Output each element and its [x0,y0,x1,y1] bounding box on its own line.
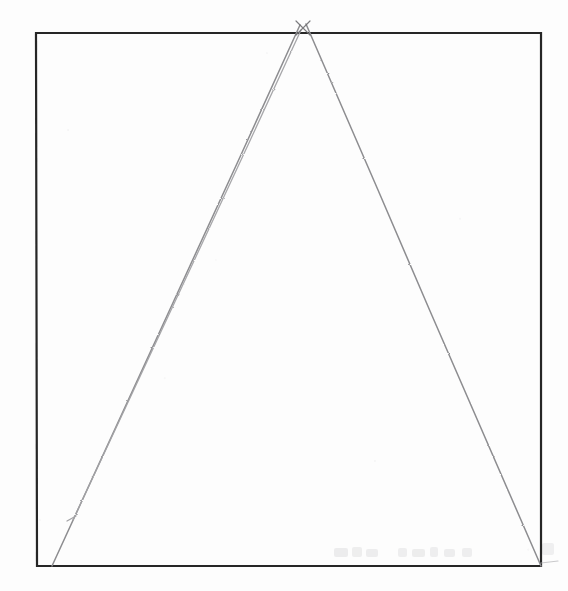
figure-canvas [0,0,568,591]
triangle-in-square-diagram [0,0,568,591]
paper-background [0,0,568,591]
